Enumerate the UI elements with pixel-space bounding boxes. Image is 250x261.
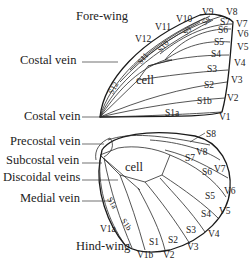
hw-vein-v3: V3 — [187, 242, 199, 252]
forewing-title: Fore-wing — [76, 9, 129, 23]
fw-vein-v6: V6 — [237, 29, 249, 39]
fw-vein-v7: V7 — [236, 19, 248, 29]
hw-space-s5: S5 — [205, 191, 215, 201]
fw-vein-v11: V11 — [155, 22, 171, 32]
forewing: Fore-wing Costal vein Costal vein cell V… — [20, 7, 249, 123]
hw-vein-v7: V7 — [214, 164, 226, 174]
fw-space-s3: S3 — [207, 64, 217, 74]
fw-vein-v12: V12 — [135, 34, 152, 44]
hindwing-subcostal-vein-label: Subcostal vein — [6, 153, 80, 167]
fw-space-s2: S2 — [204, 80, 214, 90]
fw-space-s7: S7 — [220, 17, 230, 27]
hindwing-medial-vein-label: Medial vein — [20, 191, 81, 205]
wing-venation-diagram: Fore-wing Costal vein Costal vein cell V… — [0, 0, 250, 261]
hindwing: Precostal vein Subcostal vein Discoidal … — [3, 129, 236, 260]
forewing-cell-label: cell — [136, 73, 155, 87]
hw-space-s4: S4 — [201, 209, 211, 219]
hindwing-cell-label: cell — [125, 160, 144, 174]
fw-space-s1a: S1a — [165, 108, 180, 118]
fw-vein-v8: V8 — [226, 7, 238, 17]
hw-space-s2: S2 — [168, 235, 178, 245]
hw-vein-v6: V6 — [224, 186, 236, 196]
fw-space-s4: S4 — [211, 49, 221, 59]
forewing-costal-vein-label-2: Costal vein — [24, 109, 81, 123]
hindwing-discoidal-veins-label: Discoidal veins — [3, 170, 81, 184]
hw-space-s6: S6 — [202, 167, 212, 177]
fw-vein-v5: V5 — [237, 42, 249, 52]
hw-vein-v4: V4 — [208, 229, 220, 239]
hw-vein-v2: V2 — [163, 250, 175, 260]
fw-vein-v9: V9 — [202, 7, 214, 17]
fw-vein-v1: V1 — [219, 112, 231, 122]
hw-space-s1: S1 — [149, 237, 159, 247]
hw-vein-v8: V8 — [196, 147, 208, 157]
hindwing-precostal-vein-label: Precostal vein — [10, 134, 81, 148]
hw-space-s1b: S1b — [119, 217, 134, 232]
fw-space-s5: S5 — [214, 37, 224, 47]
hindwing-title: Hind-wing — [76, 239, 131, 253]
hw-space-s8: S8 — [206, 129, 216, 139]
fw-vein-v2: V2 — [227, 93, 239, 103]
fw-space-s1b: S1b — [197, 96, 212, 106]
fw-vein-v4: V4 — [234, 58, 246, 68]
forewing-costal-vein-label-1: Costal vein — [20, 53, 77, 67]
hw-vein-v1a: V1a — [100, 224, 117, 234]
hw-vein-v1b: V1b — [137, 250, 154, 260]
hw-space-s7: S7 — [185, 153, 195, 163]
hw-vein-v5: V5 — [219, 206, 231, 216]
fw-vein-v10: V10 — [176, 14, 193, 24]
hw-space-s3: S3 — [186, 225, 196, 235]
fw-vein-v3: V3 — [231, 75, 243, 85]
